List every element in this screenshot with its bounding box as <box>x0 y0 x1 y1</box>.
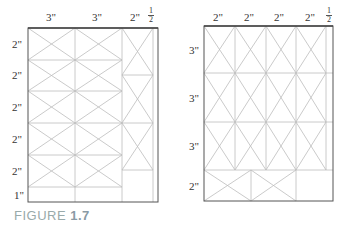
figure-caption-word: FIGURE <box>14 208 66 223</box>
left-row-label-1: 2" <box>12 39 22 50</box>
right-col-label-3: 2" <box>274 12 284 23</box>
diagram-canvas <box>0 0 346 230</box>
left-col-label-1: 3" <box>46 12 56 23</box>
figure-caption: FIGURE 1.7 <box>14 208 90 223</box>
right-col-label-2: 2" <box>244 12 254 23</box>
right-row-label-4: 2" <box>189 181 199 192</box>
left-diagram <box>28 28 153 202</box>
left-col-label-3: 2" <box>130 12 140 23</box>
figure-caption-number: 1.7 <box>70 208 90 223</box>
left-row-label-3: 2" <box>12 102 22 113</box>
left-col-label-2: 3" <box>92 12 102 23</box>
right-diagram <box>204 26 333 201</box>
right-row-label-2: 3" <box>189 93 199 104</box>
right-row-label-3: 3" <box>189 141 199 152</box>
right-col-label-4: 2" <box>305 12 315 23</box>
left-diagram-frame <box>28 28 158 202</box>
left-row-label-4: 2" <box>12 134 22 145</box>
left-row-label-5: 2" <box>12 166 22 177</box>
right-row-label-1: 3" <box>189 45 199 56</box>
left-col-fraction: 1 2 <box>148 7 154 24</box>
right-col-label-1: 2" <box>213 12 223 23</box>
right-col-fraction: 1 2 <box>326 7 332 24</box>
left-row-label-2: 2" <box>12 70 22 81</box>
right-diagram-frame <box>204 26 333 201</box>
left-row-label-6: 1" <box>14 190 24 201</box>
